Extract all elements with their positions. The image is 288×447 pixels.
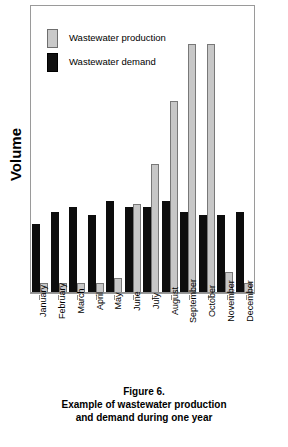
x-tick-label: May xyxy=(114,292,123,309)
bar-production xyxy=(133,204,141,292)
chart-legend: Wastewater production Wastewater demand xyxy=(47,26,166,74)
bar-demand xyxy=(69,207,77,293)
bar-demand xyxy=(199,215,207,292)
bar-group xyxy=(216,7,235,292)
x-tick-label: October xyxy=(208,285,217,317)
caption-line-2: Example of wastewater production xyxy=(0,398,288,411)
bar-production xyxy=(96,283,104,292)
x-tick: September xyxy=(180,295,199,373)
x-tick: April xyxy=(86,295,105,373)
bar-demand xyxy=(236,212,244,292)
x-tick-label: June xyxy=(133,291,142,311)
chart-plot-frame: Wastewater production Wastewater demand xyxy=(30,5,255,294)
legend-label-demand: Wastewater demand xyxy=(69,57,156,67)
x-tick: January xyxy=(30,295,49,373)
x-tick-label: February xyxy=(58,283,67,319)
bar-production xyxy=(207,44,215,292)
bar-group xyxy=(198,7,217,292)
x-tick-label: July xyxy=(152,293,161,309)
caption-line-3: and demand during one year xyxy=(0,411,288,424)
x-tick-label: August xyxy=(171,287,180,315)
x-tick: June xyxy=(124,295,143,373)
bar-group xyxy=(179,7,198,292)
legend-item-production: Wastewater production xyxy=(47,26,166,50)
bar-demand xyxy=(88,215,96,292)
bar-production xyxy=(170,101,178,292)
bar-demand xyxy=(51,212,59,292)
x-tick-label: January xyxy=(39,285,48,317)
bar-group xyxy=(235,7,254,292)
legend-label-production: Wastewater production xyxy=(69,33,166,43)
y-axis-title-text: Volume xyxy=(7,128,24,181)
x-tick: February xyxy=(49,295,68,373)
figure-caption: Figure 6. Example of wastewater producti… xyxy=(0,385,288,424)
bar-production xyxy=(188,44,196,292)
legend-item-demand: Wastewater demand xyxy=(47,50,166,74)
caption-line-1: Figure 6. xyxy=(0,385,288,398)
x-tick: October xyxy=(199,295,218,373)
plot-area: Wastewater production Wastewater demand xyxy=(31,6,254,293)
bar-production xyxy=(151,164,159,292)
x-tick-label: September xyxy=(189,279,198,323)
bar-demand xyxy=(143,207,151,293)
figure-container: Volume Wastewater production Wastewater … xyxy=(0,0,288,447)
x-tick: July xyxy=(143,295,162,373)
x-tick: August xyxy=(161,295,180,373)
bar-demand xyxy=(162,201,170,292)
bar-demand xyxy=(217,215,225,292)
x-tick: November xyxy=(218,295,237,373)
x-tick-label: April xyxy=(96,292,105,310)
square-swatch-icon-demand xyxy=(47,53,58,72)
x-tick: March xyxy=(68,295,87,373)
bar-production xyxy=(114,278,122,292)
x-axis-tick-labels: JanuaryFebruaryMarchAprilMayJuneJulyAugu… xyxy=(30,295,255,373)
x-tick: May xyxy=(105,295,124,373)
x-tick: December xyxy=(236,295,255,373)
y-axis-title: Volume xyxy=(0,100,30,210)
bar-demand xyxy=(125,207,133,293)
square-swatch-icon-production xyxy=(47,29,58,48)
x-tick-label: November xyxy=(227,280,236,322)
x-tick-label: December xyxy=(246,280,255,322)
bar-demand xyxy=(32,224,40,292)
x-tick-label: March xyxy=(77,288,86,313)
bar-demand xyxy=(106,201,114,292)
